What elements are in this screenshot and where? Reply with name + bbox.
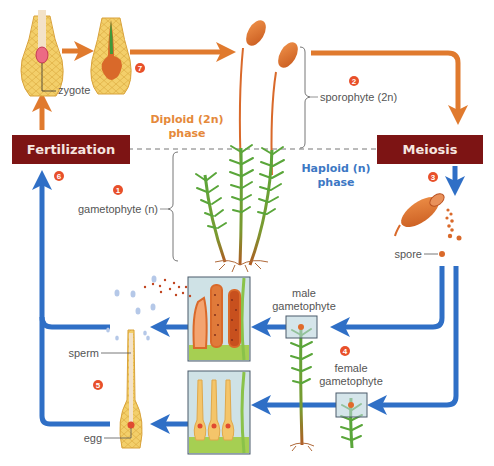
- egg-label: egg: [84, 432, 102, 444]
- spore-dot: [439, 251, 445, 257]
- diploid-phase-line2: phase: [168, 127, 205, 140]
- leafy-gametophytes: [196, 145, 284, 272]
- archegonia-inset: [188, 371, 250, 454]
- egg-cell: [128, 422, 135, 429]
- female-gametophyte: [336, 393, 367, 448]
- antheridia-inset: [188, 277, 250, 361]
- diploid-phase-line1: Diploid (2n): [150, 113, 223, 126]
- female-gametophyte-label-2: gametophyte: [319, 375, 383, 387]
- meiosis-box: Meiosis: [377, 135, 483, 164]
- step-4-badge: 4: [343, 347, 348, 356]
- moss-life-cycle-diagram: Fertilization Meiosis Diploid (2n) phase…: [0, 0, 494, 466]
- male-gametophyte-label-1: male: [292, 287, 316, 299]
- fertilization-label: Fertilization: [27, 142, 115, 157]
- spore-label: spore: [394, 248, 422, 260]
- step-6-badge: 6: [57, 172, 62, 181]
- haploid-phase-line1: Haploid (n): [301, 162, 370, 175]
- released-sperm: [106, 276, 191, 341]
- step-7-badge: 7: [138, 64, 143, 73]
- sporophyte-label: sporophyte (2n): [320, 91, 397, 103]
- mature-moss-plant: [196, 17, 302, 272]
- spore-releasing-capsule: [395, 191, 446, 236]
- fertilization-box: Fertilization: [12, 135, 130, 164]
- haploid-phase-line2: phase: [317, 176, 354, 189]
- step-3-badge: 3: [431, 173, 436, 182]
- meiosis-label: Meiosis: [402, 142, 457, 157]
- sporophyte-bracket: [300, 47, 310, 148]
- step-1-badge: 1: [116, 186, 121, 195]
- male-gametophyte: [286, 316, 317, 451]
- sporophyte-capsule: [242, 17, 302, 71]
- step-2-badge: 2: [352, 77, 357, 86]
- gametophyte-label: gametophyte (n): [78, 203, 158, 215]
- spores: [445, 208, 461, 240]
- zygote-cell: [36, 47, 48, 63]
- embryo-archegonium: [91, 18, 131, 94]
- step-5-badge: 5: [96, 381, 101, 390]
- sperm-label: sperm: [68, 347, 99, 359]
- gametophyte-bracket: [168, 152, 178, 261]
- male-gametophyte-label-2: gametophyte: [272, 300, 336, 312]
- female-gametophyte-label-1: female: [334, 362, 367, 374]
- zygote-label: zygote: [58, 84, 90, 96]
